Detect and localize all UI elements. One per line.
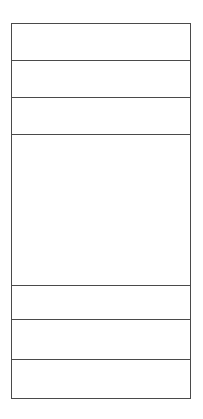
- row-5-label: [12, 286, 190, 294]
- row-6-label: [12, 320, 190, 328]
- row-2-label: [12, 61, 190, 69]
- panel-row-6: [12, 320, 190, 360]
- panel-row-5: [12, 286, 190, 320]
- bordered-panel: [11, 23, 191, 399]
- row-4-label: [12, 135, 190, 143]
- panel-row-7: [12, 360, 190, 398]
- panel-row-4-large: [12, 135, 190, 286]
- panel-row-3: [12, 98, 190, 135]
- row-1-label: [12, 24, 190, 32]
- row-3-label: [12, 98, 190, 106]
- panel-row-2: [12, 61, 190, 98]
- panel-row-1: [12, 24, 190, 61]
- row-7-label: [12, 360, 190, 368]
